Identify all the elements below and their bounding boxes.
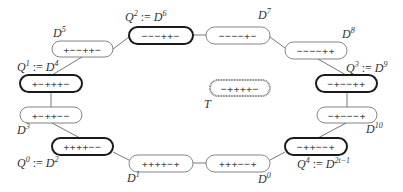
label-d5: D5 bbox=[52, 25, 66, 40]
label-d1: D1 bbox=[126, 170, 140, 185]
node-d10: −+−−−+ bbox=[317, 107, 377, 123]
label-d10: D10 bbox=[365, 121, 383, 136]
edge-d7-d8 bbox=[270, 37, 285, 48]
node-d6-q2: −−−++− bbox=[129, 27, 193, 44]
label-q4-d2t1: Q4:=D2t−1 bbox=[297, 156, 350, 171]
edge-q4-d0 bbox=[270, 152, 285, 160]
node-signs: +−−++− bbox=[64, 44, 102, 55]
node-d9-q3: −+−−++ bbox=[316, 75, 377, 92]
node-signs: +−++−− bbox=[32, 110, 70, 121]
edge-d5-d6 bbox=[113, 37, 129, 49]
label-q1-d4: Q1:=D4 bbox=[17, 59, 58, 74]
label-d7: D7 bbox=[257, 7, 272, 22]
label-d8: D8 bbox=[341, 26, 355, 41]
target-signs: −++++− bbox=[221, 83, 259, 94]
label-target: T bbox=[204, 97, 212, 111]
node-signs: −++−−+ bbox=[297, 141, 335, 152]
node-d2t1-q4: −++−−+ bbox=[285, 138, 347, 155]
node-signs: −+−−++ bbox=[328, 78, 366, 89]
edge-d8-d9 bbox=[318, 59, 346, 75]
node-d4-q1: +−+++− bbox=[20, 75, 82, 92]
node-d7: −−−−+− bbox=[206, 27, 270, 44]
node-target: −++++− bbox=[210, 80, 270, 96]
node-signs: −−−++− bbox=[142, 30, 180, 41]
node-d5: +−−++− bbox=[52, 41, 113, 57]
label-d3: D3 bbox=[16, 122, 30, 137]
node-signs: +++−−+ bbox=[219, 158, 257, 169]
node-d8: −−−−++ bbox=[285, 42, 347, 59]
cycle-diagram: +−−++− −−−++− −−−−+− −−−−++ −+−−++ −+−−−… bbox=[0, 0, 403, 192]
node-d2-q0: ++++−− bbox=[52, 138, 113, 155]
node-signs: −+−−−+ bbox=[328, 110, 366, 121]
edge-d2-d3 bbox=[52, 123, 80, 138]
edge-d1-d2 bbox=[113, 152, 129, 160]
label-q2-d6: Q2:=D6 bbox=[125, 9, 166, 24]
label-q0-d2: Q0:=D2 bbox=[17, 155, 58, 170]
label-q3-d9: Q3:=D9 bbox=[346, 60, 387, 75]
node-d3: +−++−− bbox=[20, 107, 82, 123]
label-d0: D0 bbox=[257, 171, 271, 186]
node-d0: +++−−+ bbox=[206, 155, 270, 172]
edge-d10-q4 bbox=[318, 123, 346, 138]
node-signs: −−−−++ bbox=[297, 45, 335, 56]
node-signs: ++++−− bbox=[64, 141, 102, 152]
node-signs: ++++−+ bbox=[142, 158, 180, 169]
node-signs: +−+++− bbox=[32, 78, 70, 89]
node-signs: −−−−+− bbox=[219, 30, 257, 41]
